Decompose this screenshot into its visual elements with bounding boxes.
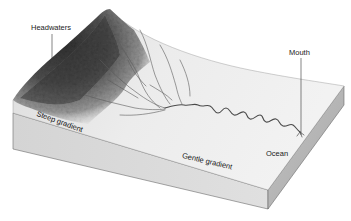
river-block-diagram: Headwaters Mouth Steep gradient Gentle g… [0, 0, 351, 221]
headwaters-label: Headwaters [31, 24, 71, 32]
diagram-graphic [0, 0, 351, 221]
ocean-label: Ocean [266, 150, 288, 158]
mouth-label: Mouth [289, 49, 310, 57]
